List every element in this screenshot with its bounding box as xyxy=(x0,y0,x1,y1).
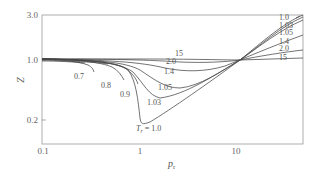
svg-text:0.9: 0.9 xyxy=(120,90,130,99)
svg-text:1.05: 1.05 xyxy=(279,28,293,37)
tr-label: Tr = 1.0 xyxy=(136,124,161,134)
x-tick-0.1: 0.1 xyxy=(37,146,48,156)
svg-text:1.4: 1.4 xyxy=(164,67,174,76)
y-tick-1: 1.0 xyxy=(27,55,39,65)
y-axis-label: Z xyxy=(15,77,26,83)
svg-text:0.8: 0.8 xyxy=(101,81,111,90)
curve-tr-0.9 xyxy=(42,59,138,84)
svg-text:15: 15 xyxy=(175,49,183,58)
x-tick-1: 1 xyxy=(138,146,143,156)
svg-text:2.0: 2.0 xyxy=(279,44,289,53)
svg-text:2.0: 2.0 xyxy=(166,57,176,66)
y-tick-0.2: 0.2 xyxy=(27,115,38,125)
right-labels: 1.0 1.03 1.05 1.4 2.0 15 xyxy=(279,13,293,62)
svg-text:1.05: 1.05 xyxy=(158,83,172,92)
inner-labels: 0.7 0.8 0.9 1.03 1.05 1.4 2.0 15 xyxy=(74,49,183,107)
x-tick-10: 10 xyxy=(232,146,242,156)
svg-text:15: 15 xyxy=(279,53,287,62)
y-tick-3: 3.0 xyxy=(27,10,39,20)
x-axis-label: pr xyxy=(167,158,176,171)
svg-text:1.03: 1.03 xyxy=(147,98,161,107)
compressibility-chart: 3.0 1.0 0.2 0.1 1 10 Z pr 0.7 xyxy=(0,0,317,173)
svg-text:0.7: 0.7 xyxy=(74,72,84,81)
